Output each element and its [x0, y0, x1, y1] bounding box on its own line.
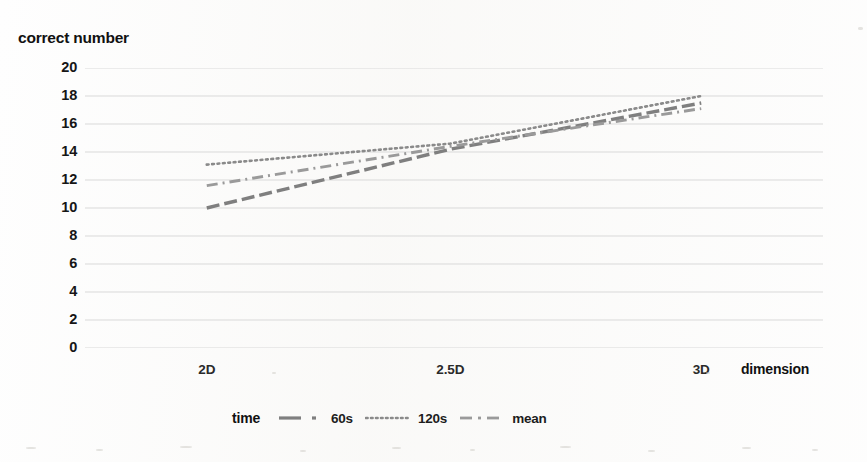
scan-speckle: [300, 450, 306, 452]
y-axis-tick: 12: [43, 171, 77, 187]
x-axis-tick: 3D: [693, 362, 710, 377]
gridlines: [85, 68, 823, 348]
series-line-120s: [207, 96, 701, 165]
scan-speckle: [26, 447, 36, 449]
scan-speckle: [858, 27, 863, 30]
legend-swatch-60s-icon: [278, 412, 326, 424]
plot-svg: [85, 68, 823, 348]
scan-speckle: [96, 449, 103, 451]
legend-swatch-mean-icon: [459, 412, 507, 424]
x-axis-title: dimension: [741, 361, 809, 377]
series-line-60s: [207, 103, 701, 208]
scan-speckle: [812, 449, 818, 451]
scan-speckle: [392, 447, 401, 449]
legend-title: time: [232, 410, 260, 426]
chart-legend: time 60s 120s mean: [232, 407, 559, 429]
scan-speckle: [180, 446, 192, 448]
legend-label-60s: 60s: [331, 411, 353, 426]
plot-area: [85, 68, 823, 348]
y-axis-tick: 8: [43, 227, 77, 243]
chart-figure: correct number 20181614121086420 2D2.5D3…: [0, 0, 867, 462]
legend-label-120s: 120s: [418, 411, 447, 426]
scan-speckle: [560, 446, 571, 448]
y-axis-tick: 20: [43, 59, 77, 75]
legend-entry-mean[interactable]: mean: [459, 411, 552, 426]
x-axis-tick: 2D: [198, 362, 215, 377]
scan-speckle: [272, 372, 276, 374]
x-axis-tick: 2.5D: [436, 362, 464, 377]
y-axis-tick: 18: [43, 87, 77, 103]
legend-entry-120s[interactable]: 120s: [365, 411, 453, 426]
scan-speckle: [648, 450, 655, 452]
y-axis-tick: 2: [43, 311, 77, 327]
y-axis-tick: 0: [43, 339, 77, 355]
legend-swatch-120s-icon: [365, 412, 413, 424]
y-axis-tick: 10: [43, 199, 77, 215]
y-axis-tick: 14: [43, 143, 77, 159]
legend-entry-60s[interactable]: 60s: [278, 411, 359, 426]
y-axis-tick: 16: [43, 115, 77, 131]
y-axis-title: correct number: [18, 29, 129, 47]
y-axis-tick: 4: [43, 283, 77, 299]
legend-label-mean: mean: [512, 411, 546, 426]
y-axis-tick: 6: [43, 255, 77, 271]
scan-speckle: [706, 372, 710, 374]
scan-speckle: [742, 447, 751, 449]
scan-speckle: [470, 449, 475, 451]
